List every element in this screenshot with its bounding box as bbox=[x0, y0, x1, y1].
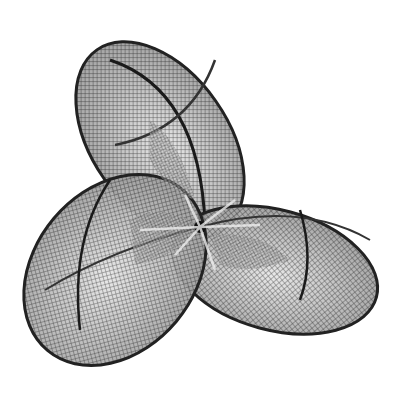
surface-illustration bbox=[0, 0, 407, 417]
boys-surface-drawing bbox=[0, 0, 407, 417]
